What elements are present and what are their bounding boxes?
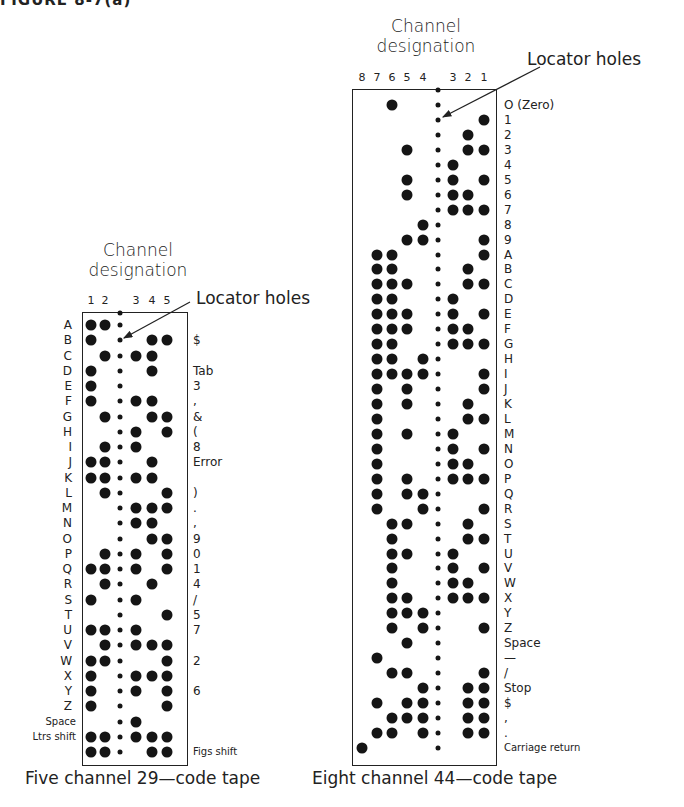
data-hole-ch2 [463, 204, 474, 215]
locator-hole [118, 536, 123, 541]
data-hole-ch3 [131, 518, 142, 529]
data-hole-ch2 [463, 144, 474, 155]
data-hole-ch5 [402, 608, 413, 619]
channel-number-3: 3 [133, 294, 140, 307]
data-hole-ch3 [448, 428, 459, 439]
locator-hole [436, 103, 441, 108]
data-hole-ch1 [479, 473, 490, 484]
data-hole-ch1 [479, 369, 490, 380]
data-hole-ch4 [147, 518, 158, 529]
data-hole-ch1 [479, 593, 490, 604]
character-label: / [504, 667, 508, 679]
character-label: K [504, 398, 512, 410]
data-hole-ch4 [147, 472, 158, 483]
channel-number-4: 4 [420, 71, 427, 84]
character-label: A [504, 249, 512, 261]
data-hole-ch6 [387, 100, 398, 111]
letter-label: M [56, 502, 72, 514]
locator-hole [118, 719, 123, 724]
figure-label: 1 [193, 563, 201, 575]
data-hole-ch7 [372, 384, 383, 395]
data-hole-ch5 [162, 411, 173, 422]
character-label: N [504, 443, 513, 455]
data-hole-ch4 [147, 396, 158, 407]
data-hole-ch5 [402, 189, 413, 200]
locator-hole [436, 491, 441, 496]
data-hole-ch4 [418, 727, 429, 738]
data-hole-ch1 [86, 365, 97, 376]
letter-label: L [56, 487, 72, 499]
locator-hole [118, 445, 123, 450]
locator-hole [118, 597, 123, 602]
letter-label: D [56, 365, 72, 377]
data-hole-ch3 [131, 731, 142, 742]
eight-channel-tape [352, 89, 497, 766]
data-hole-ch7 [372, 458, 383, 469]
character-label: 3 [504, 144, 512, 156]
locator-hole [436, 701, 441, 706]
locator-hole [436, 132, 441, 137]
data-hole-ch1 [479, 712, 490, 723]
data-hole-ch5 [402, 638, 413, 649]
locator-hole [436, 506, 441, 511]
data-hole-ch3 [448, 159, 459, 170]
locator-hole [118, 628, 123, 633]
data-hole-ch1 [479, 384, 490, 395]
character-label: C [504, 278, 512, 290]
data-hole-ch6 [387, 279, 398, 290]
data-hole-ch1 [479, 503, 490, 514]
data-hole-ch2 [463, 129, 474, 140]
channel-number-1: 1 [88, 294, 95, 307]
data-hole-ch6 [387, 309, 398, 320]
character-label: J [504, 383, 508, 395]
data-hole-ch7 [372, 399, 383, 410]
data-hole-ch4 [147, 503, 158, 514]
data-hole-ch7 [372, 279, 383, 290]
letter-label: Q [56, 563, 72, 575]
locator-hole [118, 567, 123, 572]
data-hole-ch4 [147, 670, 158, 681]
locator-hole [436, 656, 441, 661]
channel-header-line2: designation [78, 260, 198, 280]
data-hole-ch8 [357, 742, 368, 753]
data-hole-ch6 [387, 608, 398, 619]
data-hole-ch2 [100, 548, 111, 559]
data-hole-ch2 [463, 727, 474, 738]
data-hole-ch7 [372, 413, 383, 424]
locator-hole [118, 490, 123, 495]
data-hole-ch7 [372, 339, 383, 350]
channel-header-line1: Channel [88, 240, 188, 260]
letter-label: Y [56, 685, 72, 697]
data-hole-ch1 [479, 668, 490, 679]
character-label: 4 [504, 159, 512, 171]
data-hole-ch7 [372, 653, 383, 664]
data-hole-ch3 [448, 443, 459, 454]
letter-label: K [56, 472, 72, 484]
data-hole-ch1 [479, 339, 490, 350]
locator-hole [436, 177, 441, 182]
locator-hole [118, 582, 123, 587]
data-hole-ch2 [463, 712, 474, 723]
locator-hole [436, 521, 441, 526]
figure-label: ( [193, 426, 198, 438]
locator-hole [436, 581, 441, 586]
letter-label: E [56, 380, 72, 392]
locator-hole [118, 368, 123, 373]
data-hole-ch2 [100, 640, 111, 651]
data-hole-ch3 [448, 294, 459, 305]
letter-label: B [56, 334, 72, 346]
figure-label: $ [193, 334, 201, 346]
character-label: E [504, 308, 512, 320]
data-hole-ch5 [402, 698, 413, 709]
locator-hole [118, 643, 123, 648]
data-hole-ch2 [463, 533, 474, 544]
data-hole-ch1 [479, 279, 490, 290]
letter-label: U [56, 624, 72, 636]
data-hole-ch1 [479, 144, 490, 155]
data-hole-ch5 [402, 518, 413, 529]
locator-hole [118, 658, 123, 663]
character-label: 7 [504, 204, 512, 216]
data-hole-ch4 [418, 623, 429, 634]
channel-number-6: 6 [389, 71, 396, 84]
data-hole-ch1 [86, 335, 97, 346]
